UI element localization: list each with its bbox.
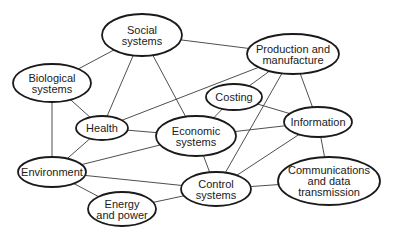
node-label: Information (290, 116, 345, 128)
node-label: Environment (21, 166, 83, 178)
node-label: systems (122, 35, 163, 47)
systems-network-diagram: SocialsystemsProduction andmanufactureBi… (0, 0, 393, 237)
node-social: Socialsystems (102, 14, 182, 56)
node-control: Controlsystems (181, 172, 251, 206)
nodes-layer: SocialsystemsProduction andmanufactureBi… (13, 14, 380, 226)
node-communications: Communicationsand datatransmission (278, 157, 380, 205)
node-label: manufacture (262, 54, 323, 66)
node-information: Information (284, 107, 352, 137)
node-label: Costing (215, 91, 252, 103)
node-energy: Energyand power (88, 192, 156, 226)
node-health: Health (76, 116, 128, 140)
node-costing: Costing (206, 84, 262, 110)
node-label: and power (96, 209, 148, 221)
node-label: transmission (298, 186, 360, 198)
node-environment: Environment (18, 157, 86, 187)
node-production: Production andmanufacture (247, 34, 339, 74)
node-economic: Economicsystems (156, 116, 236, 156)
node-label: systems (32, 83, 73, 95)
node-biological: Biologicalsystems (13, 64, 91, 102)
node-label: Health (86, 122, 118, 134)
node-label: systems (176, 136, 217, 148)
node-label: systems (196, 189, 237, 201)
